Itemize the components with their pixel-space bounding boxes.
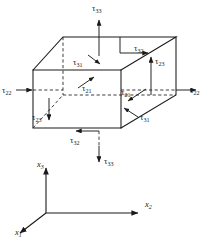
tau-31-top-face-label: τ31 [73, 58, 82, 67]
axis-label-x1: x1 [15, 228, 22, 237]
arrow-tau-31-top [88, 55, 100, 64]
figure-canvas [0, 0, 212, 244]
tau-23-front-face-label: τ23 [32, 113, 41, 122]
tau-22-right-label: τ22 [190, 86, 199, 95]
tau-32-top-face-label: τ32 [134, 44, 143, 53]
tau-33-top-label: τ33 [92, 4, 101, 13]
axis-line-x1 [20, 213, 46, 233]
tau-33-bottom-label: τ33 [104, 157, 113, 166]
coordinate-axes [20, 168, 138, 233]
tau-23-top-right-label: τ23 [155, 57, 164, 66]
box-solid-edges [33, 37, 176, 128]
tau-22-left-label: τ22 [2, 86, 11, 95]
arrow-tau-31-bottom [124, 108, 138, 117]
tau-32-bottom-face-label: τ32 [70, 136, 79, 145]
axis-label-x3: x3 [37, 160, 44, 169]
stress-cube-figure: τ33 τ32 τ23 τ31 τ22 τ22 τ21 τ21 τ23 τ31 … [0, 0, 212, 244]
tau-21-right-face-label: τ21 [121, 88, 130, 97]
tau-31-bottom-right-label: τ31 [140, 113, 149, 122]
box-hidden-edges [33, 37, 176, 128]
axis-label-x2: x2 [145, 200, 152, 209]
tau-21-left-face-label: τ21 [82, 84, 91, 93]
